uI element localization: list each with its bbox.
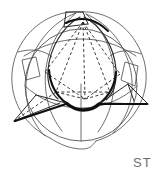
left-cusp-heavy-edge [15,104,66,121]
great-circle-left-front [26,13,76,136]
tetra-edge-apex-front [83,22,85,99]
stereographic-projection-figure [0,0,160,178]
figure-label: ST [133,156,152,169]
heavy-seam-central-band [66,103,99,110]
top-cusp-right-edge [83,12,88,24]
outer-envelope-bottom-arc [50,138,96,149]
top-cusp-left-edge [64,12,66,27]
left-cusp-heavy-stroke [15,104,66,121]
right-cusp-wedge [99,84,148,104]
tetra-edge-apex-left [56,22,83,92]
figure-container: ST [0,0,160,178]
great-circle-right-front [86,14,132,133]
tetra-edge-apex-right [83,22,110,92]
top-cusp-base-edge [64,24,88,27]
